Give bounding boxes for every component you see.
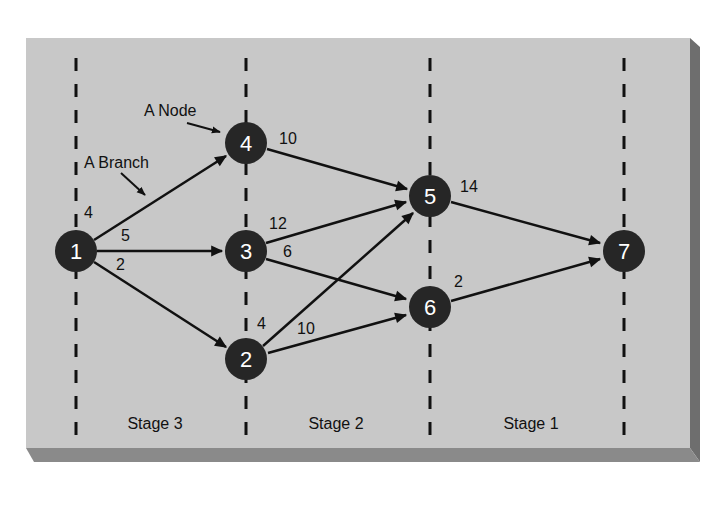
node-5-label: 5: [424, 184, 436, 209]
node-7-label: 7: [618, 239, 630, 264]
weight-4-5: 10: [279, 130, 297, 147]
node-3-label: 3: [240, 239, 252, 264]
stage-3-label: Stage 3: [127, 415, 182, 432]
node-5: 5: [409, 175, 451, 217]
node-2: 2: [225, 338, 267, 380]
weight-2-6: 10: [297, 320, 315, 337]
weight-1-3: 5: [121, 227, 130, 244]
node-2-label: 2: [240, 347, 252, 372]
node-4: 4: [225, 122, 267, 164]
node-4-label: 4: [240, 131, 252, 156]
weight-3-6: 6: [283, 243, 292, 260]
weight-1-4: 4: [84, 204, 93, 221]
weight-5-7: 14: [460, 178, 478, 195]
annotation-node-label: A Node: [144, 102, 197, 119]
node-1-label: 1: [70, 239, 82, 264]
node-3: 3: [225, 230, 267, 272]
node-7: 7: [603, 230, 645, 272]
board-shadow-bottom: [26, 448, 700, 462]
weight-6-7: 2: [454, 273, 463, 290]
annotation-branch-label: A Branch: [84, 154, 149, 171]
weight-3-5: 12: [269, 215, 287, 232]
weight-1-2: 2: [116, 256, 125, 273]
node-6: 6: [409, 286, 451, 328]
stage-network-diagram: 4 5 2 10 12 6 4 10 14 2 A Node A Branch …: [0, 0, 725, 515]
board-shadow-right: [690, 38, 700, 462]
node-1: 1: [55, 230, 97, 272]
node-6-label: 6: [424, 295, 436, 320]
weight-2-5: 4: [257, 315, 266, 332]
stage-2-label: Stage 2: [308, 415, 363, 432]
stage-1-label: Stage 1: [503, 415, 558, 432]
